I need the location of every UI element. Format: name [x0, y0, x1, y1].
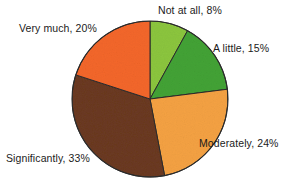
- pie-label-significantly: Significantly, 33%: [6, 152, 90, 164]
- pie-label-not-at-all: Not at all, 8%: [158, 4, 222, 16]
- pie-label-moderately: Moderately, 24%: [199, 137, 279, 149]
- pie-chart: Not at all, 8% A little, 15% Moderately,…: [0, 0, 305, 180]
- pie-label-a-little: A little, 15%: [213, 42, 269, 54]
- pie-slices-group: [72, 21, 228, 177]
- pie-label-very-much: Very much, 20%: [19, 22, 97, 34]
